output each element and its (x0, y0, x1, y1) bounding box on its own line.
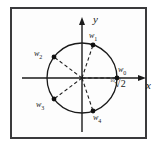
radius-w1 (82, 45, 93, 78)
roots-of-unity-diagram (0, 0, 157, 154)
radicand: 2 (121, 78, 126, 89)
label-w4: w4 (93, 114, 101, 124)
radius-w3 (54, 78, 82, 99)
figure-root: y x 10√2 w0 w1 w2 w3 w4 (0, 0, 157, 154)
y-axis (79, 17, 85, 132)
radius-w2 (54, 57, 82, 78)
point-w2 (52, 55, 57, 60)
point-w1 (91, 43, 96, 48)
point-w3 (52, 97, 57, 102)
radius-w4 (82, 78, 93, 111)
radius-annotation: 10√2 (110, 78, 126, 89)
label-w0: w0 (118, 66, 126, 76)
y-axis-label: y (93, 14, 98, 25)
x-axis-label: x (146, 80, 151, 91)
label-w2: w2 (34, 50, 42, 60)
label-w1: w1 (89, 32, 97, 42)
label-w3: w3 (36, 101, 44, 111)
